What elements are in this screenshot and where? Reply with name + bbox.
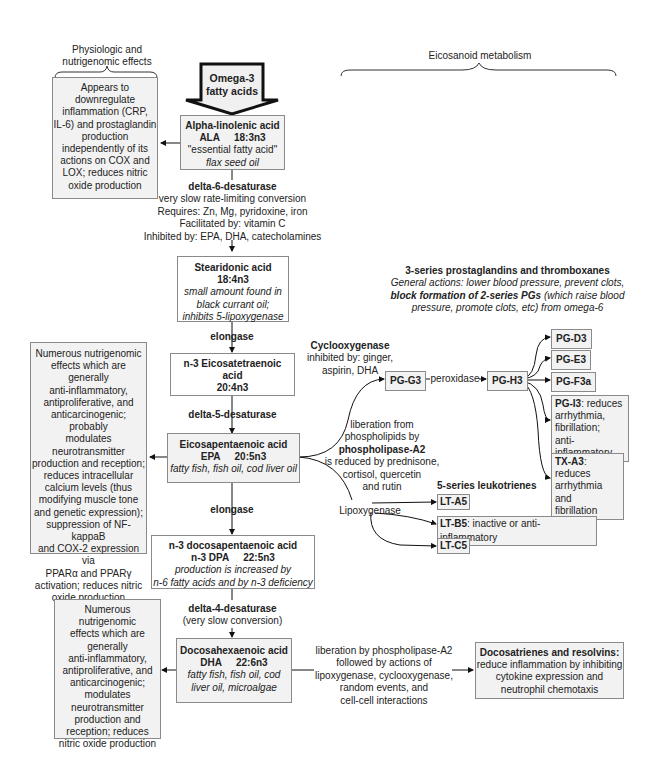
text-line: actions on COX and [53,155,157,167]
delta6-line: Facilitated by: vitamin C [140,218,325,230]
text-line: effects which are [55,628,160,640]
text-line: reduce inflammation by inhibiting [476,659,623,671]
pg-i3-desc: arrhythmia, [555,410,625,422]
stearidonic-acid-box: Stearidonic acid 18:4n3 small amount fou… [177,256,289,322]
eta-line: acid [171,370,294,382]
ala-name: Alpha-linolenic acid [181,120,284,132]
text-line: PPARα and PPARγ [31,568,146,580]
sda-note: small amount found in [178,286,288,298]
pg-f3a-node: PG-F3a [551,372,596,392]
dha-effects-box: Numerous nutrigenomic effects which are … [54,599,161,739]
dha-box: Docosahexaenoic acid DHA22:6n3 fatty fis… [176,638,292,703]
cox-line: inhibited by: ginger, [305,352,395,364]
text-line: antiproliferative, and [55,665,160,677]
eta-line: n-3 Eicosatetraenoic [171,358,294,370]
text-line: neurotransmitter [31,446,146,458]
header-line: nutrigenomic effects [42,56,172,68]
text-line: reduces intracellular [31,470,146,482]
delta4-note: (very slow conversion) [170,615,295,627]
text-line: liberation by phospholipase-A2 [314,645,454,657]
text-line: random events, and [314,682,454,694]
pg-i3-node: PG-I3: reduces arrhythmia, fibrillation;… [551,395,629,462]
prostaglandins-line: block formation of 2-series PGs (which r… [375,290,640,302]
tx-a3-name: TX-A3 [555,456,584,467]
text-line: Appears to [53,82,157,94]
omega3-line: fatty acids [196,85,268,98]
lt-b5-name: LT-B5 [440,518,467,529]
dpa-note: n-6 fatty acids and by n-3 deficiency [152,577,314,589]
pg-i3-desc: : reduces [581,398,622,409]
resolvins-box: Docosatrienes and resolvins: reduce infl… [475,642,624,699]
dha-name: Docosahexaenoic acid [177,645,291,657]
delta4-name: delta-4-desaturase [170,603,295,615]
ala-formula-line: ALA18:3n3 [181,132,284,144]
text-line: independently of its [53,143,157,155]
text-line: and genetic expression); [31,507,146,519]
omega3-line: Omega-3 [196,72,268,85]
eta-line: 20:4n3 [171,382,294,394]
lipoxygenase-label: Lipoxygenase [335,505,405,517]
tx-a3-desc: arrhythmia and [555,480,620,504]
delta6-line: Inhibited by: EPA, DHA, catecholamines [140,231,325,243]
text-line: modulates [55,689,160,701]
text-line: lipoxygenase, cyclooxygenase, [314,670,454,682]
block-bold: block formation of 2-series PGs [391,290,542,301]
ala-abbr: ALA [199,132,220,143]
ala-box: Alpha-linolenic acid ALA18:3n3 "essentia… [180,115,285,170]
delta5-desaturase-label: delta-5-desaturase [180,409,285,421]
pla2-line: is reduced by prednisone, [322,456,442,468]
eicosatetraenoic-acid-box: n-3 Eicosatetraenoic acid 20:4n3 [170,353,295,396]
prostaglandins-title: 3-series prostaglandins and thromboxanes [375,265,640,277]
text-line: reception; reduces [55,726,160,738]
dha-source: liver oil, microalgae [177,682,291,694]
dha-formula-line: DHA22:6n3 [177,657,291,669]
text-line: effects which are generally [31,360,146,384]
text-line: production and [55,714,160,726]
epa-name: Eicosapentaenoic acid [168,439,299,451]
elongase-label-1: elongase [200,331,264,343]
epa-abbr: EPA [201,451,221,462]
sda-name: Stearidonic acid [178,262,288,274]
text-line: anticarcinogenic; [55,677,160,689]
pg-e3-node: PG-E3 [551,350,591,370]
text-line: Numerous nutrigenomic [31,348,146,360]
text-line: suppression of NF-kappaB [31,519,146,543]
text-line: activation; reduces nitric [31,580,146,592]
text-line: Numerous nutrigenomic [55,604,160,628]
pg-d3-node: PG-D3 [551,329,592,349]
text-line: antiproliferative, and [31,397,146,409]
text-line: nitric oxide production [55,738,160,750]
text-line: followed by actions of [314,657,454,669]
tx-a3-node: TX-A3: reduces arrhythmia and fibrillati… [551,453,624,520]
epa-source: fatty fish, fish oil, cod liver oil [168,463,299,475]
peroxidase-label: peroxidase [430,373,480,385]
docosapentaenoic-acid-box: n-3 docosapentaenoic acid n-3 DPA22:5n3 … [151,535,315,589]
pg-g3-node: PG-G3 [385,371,426,391]
text-line: downregulate [53,94,157,106]
pla2-line: cortisol, quercetin [322,469,442,481]
text-line: and COX-2 expression via [31,543,146,567]
delta4-desaturase-label: delta-4-desaturase (very slow conversion… [170,603,295,628]
ala-note: "essential fatty acid" [181,144,284,156]
dpa-name: n-3 docosapentaenoic acid [152,540,314,552]
delta6-line: Requires: Zn, Mg, pyridoxine, iron [140,206,325,218]
prostaglandins-header: 3-series prostaglandins and thromboxanes… [375,265,640,315]
text-line: anti-inflammatory, [31,385,146,397]
sda-note: inhibits 5-lipoxygenase [178,311,288,323]
eicosanoid-metabolism-header: Eicosanoid metabolism [410,50,550,62]
delta6-name: delta-6-desaturase [140,181,325,193]
dpa-formula: 22:5n3 [243,552,275,563]
block-rest: (which raise blood [541,290,624,301]
text-line: production [53,131,157,143]
resolvins-title: Docosatrienes and resolvins: [476,647,623,659]
text-line: cell-cell interactions [314,695,454,707]
epa-formula: 20:5n3 [235,451,267,462]
text-line: modifying muscle tone [31,494,146,506]
sda-note: black currant oil; [178,299,288,311]
ala-source: flax seed oil [181,157,284,169]
pla2-name: phospholipase-A2 [322,444,442,456]
cox-line: aspirin, DHA [305,365,395,377]
text-line: neutrophil chemotaxis [476,684,623,696]
epa-box: Eicosapentaenoic acid EPA20:5n3 fatty fi… [167,433,300,483]
elongase-label-2: elongase [200,504,264,516]
